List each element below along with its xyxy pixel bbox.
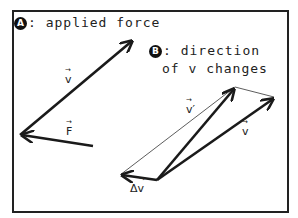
label-v-prime: → v′: [186, 103, 195, 116]
vector-drawing: [0, 0, 298, 218]
label-delta-v: → Δv: [130, 182, 144, 195]
velocity-vector-a: [20, 41, 132, 135]
panel-a-title: : applied force: [28, 15, 160, 30]
badge-a: A: [14, 17, 27, 30]
vector-arrow-icon: →: [139, 175, 145, 183]
panel-b-title-line2: of v changes: [162, 61, 268, 76]
label-f: → F: [66, 125, 72, 138]
vector-arrow-icon: →: [186, 96, 192, 104]
vector-arrow-icon: →: [65, 66, 71, 74]
vector-arrow-icon: →: [242, 118, 248, 126]
thin-v-prime-line: [120, 87, 235, 175]
label-v-b: → v: [242, 125, 249, 138]
force-vector: [22, 135, 93, 146]
panel-b-title-line1: : direction: [163, 43, 260, 58]
badge-b: B: [149, 45, 162, 58]
vector-arrow-icon: →: [66, 118, 72, 126]
label-v-a: → v: [65, 73, 72, 86]
thin-top-line: [235, 87, 274, 97]
